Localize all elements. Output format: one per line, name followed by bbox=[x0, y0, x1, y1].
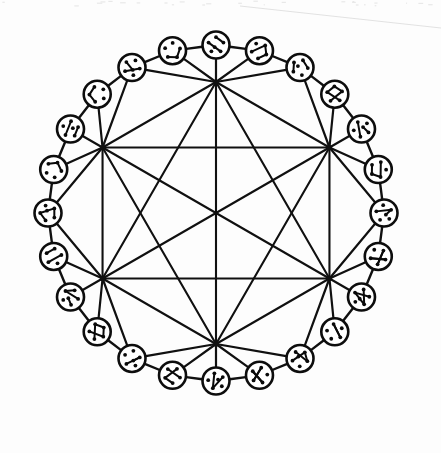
scan-speck bbox=[108, 1, 112, 2]
node-inner-dot bbox=[52, 216, 56, 220]
node-inner-dot bbox=[45, 209, 49, 213]
node-inner-dot bbox=[61, 124, 65, 128]
scan-speck bbox=[202, 4, 205, 5]
node-inner-dot bbox=[379, 160, 383, 164]
node-inner-dot bbox=[362, 288, 366, 292]
node-inner-dot bbox=[325, 90, 329, 94]
scan-speck bbox=[97, 3, 102, 4]
node-inner-dot bbox=[87, 329, 91, 333]
node-inner-dot bbox=[76, 125, 80, 129]
node-inner-dot bbox=[53, 175, 57, 179]
node-inner-dot bbox=[38, 211, 42, 215]
ring-edge bbox=[108, 340, 121, 350]
node-inner-dot bbox=[131, 359, 135, 363]
ring-node bbox=[371, 200, 398, 227]
scan-speck bbox=[264, 4, 265, 5]
ring-node bbox=[365, 156, 392, 183]
scan-speck bbox=[374, 3, 377, 4]
node-inner-dot bbox=[378, 218, 382, 222]
scan-speck bbox=[2, 2, 4, 3]
node-inner-dot bbox=[259, 366, 263, 370]
node-inner-dot bbox=[175, 367, 179, 371]
node-inner-dot bbox=[71, 126, 75, 130]
node-inner-dot bbox=[131, 68, 135, 72]
node-inner-dot bbox=[210, 49, 214, 53]
node-inner-dot bbox=[254, 42, 258, 46]
node-outline bbox=[40, 243, 67, 270]
scan-speck bbox=[206, 3, 211, 4]
node-inner-dot bbox=[372, 248, 376, 252]
ring-edge bbox=[145, 56, 160, 62]
ring-edge bbox=[343, 105, 353, 118]
ring-edge bbox=[79, 105, 89, 118]
scan-speck bbox=[172, 4, 174, 5]
node-inner-dot bbox=[214, 35, 218, 39]
node-inner-dot bbox=[338, 98, 342, 102]
ring-node bbox=[287, 54, 314, 81]
node-inner-dot bbox=[301, 58, 305, 62]
scan-speck bbox=[137, 2, 141, 3]
node-inner-dot bbox=[213, 45, 217, 49]
node-inner-dot bbox=[362, 302, 366, 306]
hub-chord-layer bbox=[103, 82, 330, 344]
ring-node bbox=[57, 284, 84, 311]
node-inner-dot bbox=[369, 256, 373, 260]
ring-edge bbox=[186, 377, 202, 379]
node-inner-dot bbox=[93, 85, 97, 89]
node-inner-dot bbox=[291, 70, 295, 74]
node-inner-dot bbox=[359, 135, 363, 139]
hub-spoke bbox=[146, 344, 216, 356]
node-inner-dot bbox=[101, 335, 105, 339]
hub-spoke bbox=[329, 136, 349, 148]
node-inner-dot bbox=[124, 60, 128, 64]
node-inner-dot bbox=[60, 169, 64, 173]
hub-spoke bbox=[83, 279, 103, 291]
node-inner-dot bbox=[138, 356, 142, 360]
hub-chord bbox=[103, 279, 216, 345]
node-inner-dot bbox=[294, 350, 298, 354]
node-inner-dot bbox=[69, 119, 73, 123]
scan-speck bbox=[74, 5, 79, 6]
node-outline bbox=[119, 345, 146, 372]
node-inner-dot bbox=[207, 41, 211, 45]
node-inner-dot bbox=[361, 125, 365, 129]
node-inner-dot bbox=[325, 329, 329, 333]
node-inner-dot bbox=[367, 295, 371, 299]
node-inner-dot bbox=[123, 69, 127, 73]
ring-node bbox=[40, 156, 67, 183]
node-inner-dot bbox=[44, 219, 48, 223]
node-inner-dot bbox=[292, 61, 296, 65]
node-inner-dot bbox=[370, 163, 374, 167]
scan-speck bbox=[101, 1, 106, 2]
node-inner-dot bbox=[61, 298, 65, 302]
scan-speck bbox=[282, 2, 286, 3]
ring-edge bbox=[380, 183, 382, 199]
node-inner-dot bbox=[352, 128, 356, 132]
hub-chord bbox=[216, 279, 329, 345]
node-inner-dot bbox=[358, 297, 362, 301]
hub-vertex bbox=[213, 341, 218, 346]
hub-vertex bbox=[213, 79, 218, 84]
node-outline bbox=[246, 37, 273, 64]
node-inner-dot bbox=[60, 253, 64, 257]
ring-node bbox=[119, 345, 146, 372]
ring-node bbox=[365, 243, 392, 270]
ring-edge bbox=[230, 47, 246, 49]
node-inner-dot bbox=[53, 247, 57, 251]
ring-node bbox=[246, 37, 273, 64]
scan-speck bbox=[352, 2, 356, 3]
node-inner-dot bbox=[87, 93, 91, 97]
node-inner-dot bbox=[376, 262, 380, 266]
node-inner-dot bbox=[291, 359, 295, 363]
node-inner-dot bbox=[379, 175, 383, 179]
node-inner-dot bbox=[69, 303, 73, 307]
node-inner-dot bbox=[46, 260, 50, 264]
scan-speck bbox=[253, 1, 258, 2]
ring-node bbox=[246, 362, 273, 389]
node-inner-dot bbox=[76, 297, 80, 301]
node-outline bbox=[321, 318, 348, 345]
scan-speck bbox=[406, 3, 407, 4]
node-inner-dot bbox=[365, 121, 369, 125]
ring-node bbox=[287, 345, 314, 372]
hub-spoke bbox=[329, 279, 349, 291]
